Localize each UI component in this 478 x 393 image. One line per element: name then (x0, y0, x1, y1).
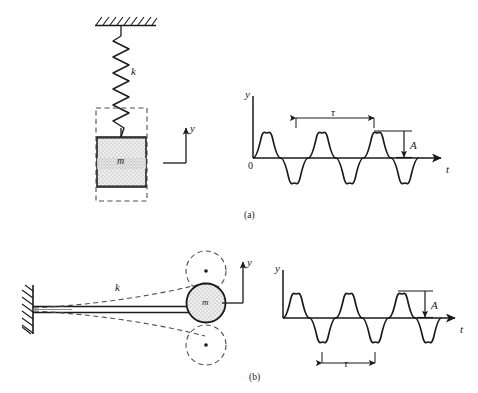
plot-a-amplitude-marker (374, 131, 412, 158)
plot-b-t-label: t (460, 323, 463, 335)
mass-label-a: m (117, 155, 124, 166)
figure-canvas (0, 0, 478, 393)
y-axis-label-system-a: y (190, 122, 195, 134)
panel-a-spring-mass-system (95, 17, 186, 201)
panel-label-a: (a) (244, 210, 255, 220)
mass-label-b: m (202, 297, 209, 307)
wall-hatch-lines (22, 285, 33, 334)
ceiling-support (95, 17, 157, 26)
wall-support (22, 285, 33, 334)
plot-b-amplitude-label: A (431, 299, 438, 311)
panel-b-cantilever-system (22, 251, 243, 365)
plot-a-origin-label: 0 (248, 160, 253, 171)
plot-a-period-label: τ (331, 106, 335, 118)
plot-b-y-label: y (275, 262, 280, 274)
y-axis-label-system-b: y (247, 256, 252, 268)
panel-label-b: (b) (249, 372, 260, 382)
ghost-mass-down (186, 325, 226, 365)
plot-a-period-marker (296, 118, 374, 128)
plot-b-period-marker (322, 352, 375, 363)
plot-b-amplitude-marker (398, 291, 433, 318)
spring-element (113, 25, 129, 137)
spring-constant-label-b: k (115, 281, 120, 293)
plot-a-amplitude-label: A (410, 139, 417, 151)
plot-a-t-label: t (446, 163, 449, 175)
plot-a-y-label: y (245, 88, 250, 100)
plot-b-period-label: τ (344, 357, 348, 369)
cantilever-beam (33, 307, 213, 313)
hatch-lines (96, 17, 157, 25)
y-axis-indicator-a (163, 128, 186, 163)
spring-constant-label-a: k (131, 65, 136, 77)
panel-b-waveform-plot (283, 270, 455, 363)
